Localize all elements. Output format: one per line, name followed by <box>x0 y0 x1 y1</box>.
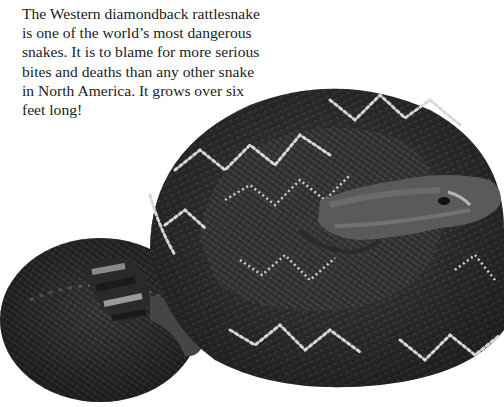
snake-eye <box>438 197 450 205</box>
caption-text: The Western diamondback rattlesnake is o… <box>22 4 262 119</box>
main-coil <box>150 89 504 388</box>
